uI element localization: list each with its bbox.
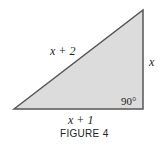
figure-caption: FIGURE 4 [60, 128, 109, 139]
base-label: x + 1 [68, 113, 93, 128]
right-angle-label: 90° [121, 95, 136, 107]
vertical-leg-label: x [149, 55, 154, 70]
hypotenuse-label: x + 2 [50, 44, 75, 59]
